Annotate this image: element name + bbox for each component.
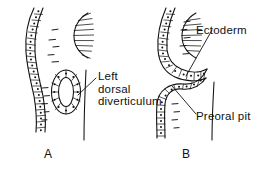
panel-letter-a: A (44, 147, 52, 161)
panel-a-axis-line (84, 70, 86, 140)
panel-b-preoral-leader-line (172, 86, 196, 114)
label-left-dorsal-diverticulum: Left dorsal diverticulum (98, 70, 162, 108)
panel-a-left-dorsal-diverticulum (52, 70, 81, 114)
label-ectoderm: Ectoderm (196, 24, 247, 37)
label-line-3: diverticulum (98, 95, 162, 108)
panel-a-epithelium-wall (26, 8, 46, 132)
figure-canvas: Left dorsal diverticulum Ectoderm Preora… (0, 0, 271, 178)
panel-a-leader-line (78, 78, 96, 95)
label-preoral-pit: Preoral pit (196, 110, 251, 123)
label-line-2: dorsal (98, 83, 162, 96)
panel-b-ectoderm-leader-line (186, 30, 212, 76)
panel-a-ectoderm-arc (74, 13, 94, 58)
label-line-1: Left (98, 70, 162, 83)
panel-letter-b: B (182, 147, 190, 161)
